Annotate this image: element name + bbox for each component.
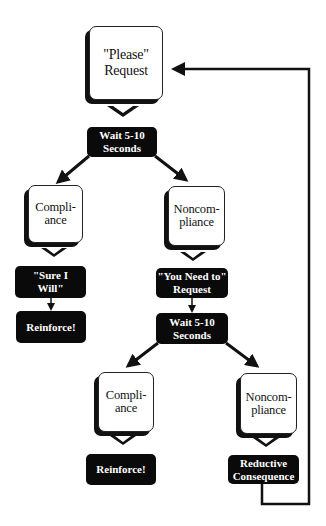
node-label: "Please" Request (103, 47, 149, 79)
node-reinforce-2: Reinforce! (86, 454, 156, 485)
node-wait-2: Wait 5-10 Seconds (156, 313, 228, 344)
arrow-left-icon (171, 62, 185, 76)
node-sure-i-will: "Sure I Will" (15, 266, 86, 298)
node-you-need-to-request: "You Need to" Request (156, 268, 228, 298)
node-label: Compli- ance (35, 201, 75, 227)
node-label: Compli- ance (106, 389, 146, 415)
node-label: Noncom- pliance (246, 391, 292, 417)
connector-layer (0, 0, 326, 526)
node-label: Noncom- pliance (174, 203, 220, 229)
node-wait-1: Wait 5-10 Seconds (87, 127, 157, 157)
node-reductive-consequence: Reductive Consequence (228, 455, 299, 484)
node-reinforce-1: Reinforce! (16, 311, 86, 343)
